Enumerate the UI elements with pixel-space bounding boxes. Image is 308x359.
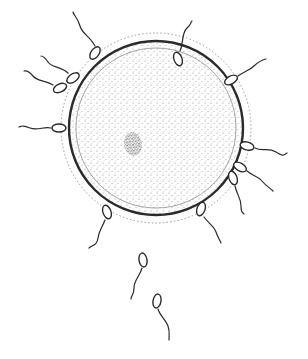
sperm-tail bbox=[235, 186, 244, 214]
sperm-head bbox=[101, 204, 113, 220]
sperm-head bbox=[52, 124, 66, 132]
sperm-13 bbox=[152, 293, 169, 340]
sperm-head bbox=[152, 293, 162, 308]
sperm-head bbox=[52, 81, 68, 94]
sperm-tail bbox=[158, 309, 169, 340]
illustration-canvas bbox=[0, 0, 308, 359]
sperm-head bbox=[138, 252, 148, 267]
sperm-tail bbox=[204, 217, 221, 243]
sperm-9 bbox=[227, 170, 244, 214]
sperm-tail bbox=[73, 12, 95, 46]
sperm-12 bbox=[131, 252, 148, 299]
sperm-tail bbox=[89, 220, 105, 248]
ovum-illustration: Ovum surrounded by spermatozoa bbox=[0, 0, 308, 359]
sperm-tail bbox=[255, 148, 287, 155]
sperm-4 bbox=[19, 124, 66, 132]
sperm-head bbox=[227, 170, 239, 186]
sperm-tail bbox=[24, 71, 53, 85]
sperm-tail bbox=[19, 126, 51, 129]
sperm-tail bbox=[247, 171, 273, 191]
sperm-2 bbox=[41, 56, 81, 85]
sperm-8 bbox=[232, 160, 273, 191]
sperm-3 bbox=[24, 71, 68, 95]
sperm-tail bbox=[238, 59, 266, 76]
sperm-tail bbox=[41, 56, 68, 73]
sperm-head bbox=[239, 140, 255, 151]
sperm-7 bbox=[239, 140, 287, 155]
sperm-tail bbox=[131, 268, 142, 299]
sperm-1 bbox=[73, 12, 102, 61]
sperm-6 bbox=[223, 59, 266, 87]
sperm-11 bbox=[195, 201, 221, 243]
sperm-head bbox=[88, 45, 103, 61]
sperm-10 bbox=[89, 204, 113, 248]
